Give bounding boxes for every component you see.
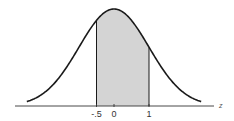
z-axis-label: z <box>218 102 223 109</box>
shaded-area <box>97 9 150 106</box>
tick-label: 1 <box>146 109 151 119</box>
normal-curve-chart: -.501 z <box>0 0 234 121</box>
tick-label: -.5 <box>91 109 102 119</box>
tick-label: 0 <box>111 109 116 119</box>
